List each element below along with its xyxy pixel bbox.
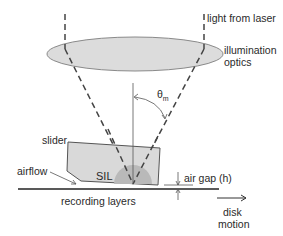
- illumination-optics-lens: [47, 37, 223, 71]
- label-air-gap: air gap (h): [184, 172, 232, 184]
- theta-subscript: m: [163, 95, 169, 102]
- label-sil: SIL: [96, 170, 113, 182]
- label-airflow: airflow: [17, 165, 47, 177]
- label-optics: optics: [224, 56, 251, 68]
- diagram-canvas: [0, 0, 283, 236]
- label-light-from-laser: light from laser: [207, 12, 276, 24]
- label-theta: θm: [157, 88, 169, 105]
- label-slider: slider: [42, 134, 67, 146]
- label-recording-layers: recording layers: [61, 195, 136, 207]
- label-disk: disk: [223, 206, 242, 218]
- label-motion: motion: [218, 218, 250, 230]
- label-illumination: illumination: [224, 44, 277, 56]
